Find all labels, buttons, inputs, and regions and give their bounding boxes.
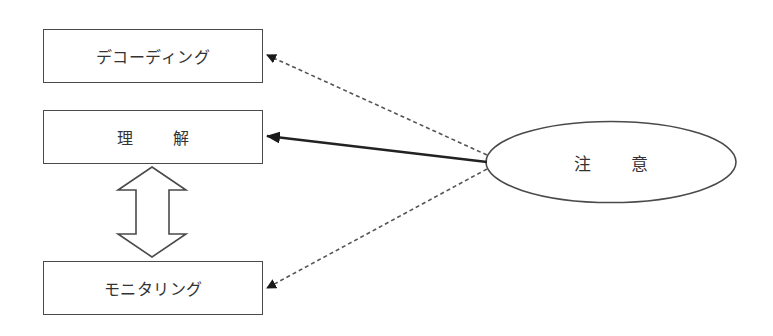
node-monitoring: モニタリング: [43, 261, 263, 315]
node-decoding-label: デコーディング: [96, 44, 211, 68]
edge-attention-to-monitoring: [267, 169, 487, 288]
node-monitoring-label: モニタリング: [104, 276, 203, 300]
double-arrow-icon: [118, 167, 186, 257]
node-decoding: デコーディング: [43, 29, 263, 83]
node-attention: 注 意: [486, 122, 736, 203]
node-comprehension: 理 解: [43, 110, 263, 164]
node-comprehension-char-1: 理: [117, 125, 134, 149]
node-attention-char-1: 注: [574, 150, 591, 175]
node-comprehension-char-2: 解: [173, 125, 190, 149]
node-attention-char-2: 意: [631, 150, 648, 175]
